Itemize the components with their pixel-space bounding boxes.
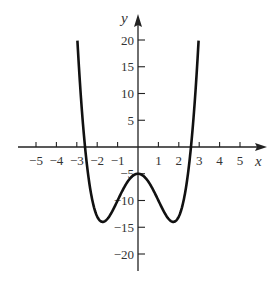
y-axis-label: y xyxy=(119,10,128,26)
x-tick-label: −3 xyxy=(70,153,84,168)
y-tick-label: 20 xyxy=(121,33,134,48)
y-tick-label: −15 xyxy=(114,220,134,235)
y-tick-label: 5 xyxy=(128,113,135,128)
x-tick-label: −5 xyxy=(29,153,43,168)
y-tick-label: 15 xyxy=(121,59,134,74)
x-tick-label: 3 xyxy=(196,153,203,168)
x-tick-label: −2 xyxy=(90,153,104,168)
x-axis-label: x xyxy=(254,153,262,169)
y-tick-label: −20 xyxy=(114,247,134,262)
x-tick-label: −4 xyxy=(49,153,63,168)
function-graph: −5−4−3−2−1123452015105−5−10−15−20 x y xyxy=(0,0,278,284)
axes xyxy=(18,14,267,271)
y-tick-label: 10 xyxy=(121,86,134,101)
x-tick-label: 5 xyxy=(237,153,244,168)
x-tick-label: 2 xyxy=(176,153,183,168)
x-tick-label: 4 xyxy=(216,153,223,168)
y-tick-label: −5 xyxy=(120,166,134,181)
x-tick-label: 1 xyxy=(155,153,162,168)
